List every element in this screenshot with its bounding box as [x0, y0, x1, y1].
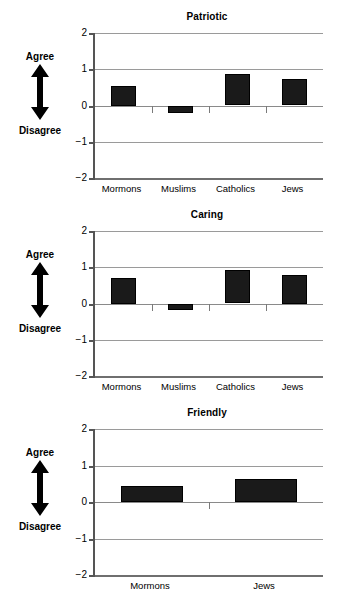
- y-axis-tick: [89, 267, 95, 269]
- chart-panel: CaringAgreeDisagree210−1−2MormonsMuslims…: [0, 0, 347, 605]
- y-axis-tick-label: −2: [76, 570, 87, 580]
- chart-title: Caring: [93, 209, 321, 220]
- y-axis-tick: [89, 466, 95, 468]
- y-axis-tick: [89, 539, 95, 541]
- bar: [168, 304, 193, 310]
- double-headed-vertical-arrow-icon: [4, 64, 76, 124]
- x-axis-category-label: Muslims: [150, 381, 207, 392]
- x-axis-tick: [266, 106, 267, 113]
- bar: [225, 270, 250, 303]
- x-axis-tick: [152, 106, 153, 113]
- agree-disagree-scale-annotation: AgreeDisagree: [4, 51, 76, 137]
- double-headed-vertical-arrow-icon: [4, 460, 76, 520]
- agree-label: Agree: [4, 447, 76, 459]
- y-axis-tick-label: 1: [81, 262, 87, 272]
- x-axis-labels: MormonsMuslimsCatholicsJews: [93, 381, 321, 392]
- y-axis-tick: [89, 69, 95, 71]
- y-axis-tick-label: 1: [81, 461, 87, 471]
- y-axis-tick: [89, 142, 95, 144]
- plot-area: 210−1−2: [93, 429, 321, 575]
- disagree-label: Disagree: [4, 521, 76, 533]
- disagree-label: Disagree: [4, 323, 76, 335]
- y-axis-tick: [89, 304, 95, 306]
- y-axis-tick-label: 2: [81, 28, 87, 38]
- gridline: [95, 231, 323, 232]
- x-axis-labels: MormonsJews: [93, 580, 321, 591]
- y-axis-tick-label: 2: [81, 226, 87, 236]
- gridline: [95, 267, 323, 268]
- agree-label: Agree: [4, 249, 76, 261]
- agree-disagree-scale-annotation: AgreeDisagree: [4, 249, 76, 335]
- y-axis-tick: [89, 178, 95, 180]
- y-axis-tick: [89, 502, 95, 504]
- gridline: [95, 178, 323, 180]
- gridline: [95, 106, 323, 107]
- y-axis-tick-label: −2: [76, 173, 87, 183]
- gridline: [95, 142, 323, 143]
- gridline: [95, 33, 323, 34]
- chart-panel: PatrioticAgreeDisagree210−1−2MormonsMusl…: [0, 0, 347, 605]
- gridline: [95, 69, 323, 70]
- bar: [111, 86, 136, 106]
- y-axis-tick-label: −1: [76, 137, 87, 147]
- x-axis-category-label: Mormons: [93, 381, 150, 392]
- y-axis-tick-label: 0: [81, 299, 87, 309]
- x-axis-category-label: Catholics: [207, 183, 264, 194]
- x-axis-category-label: Catholics: [207, 381, 264, 392]
- x-axis-category-label: Muslims: [150, 183, 207, 194]
- y-axis-tick: [89, 231, 95, 233]
- y-axis-tick-label: 1: [81, 64, 87, 74]
- gridline: [95, 466, 323, 467]
- y-axis-tick-label: −2: [76, 371, 87, 381]
- x-axis-category-label: Jews: [207, 580, 321, 591]
- x-axis-category-label: Jews: [264, 183, 321, 194]
- gridline: [95, 340, 323, 341]
- gridline: [95, 575, 323, 577]
- y-axis-tick-label: −1: [76, 534, 87, 544]
- agree-disagree-scale-annotation: AgreeDisagree: [4, 447, 76, 533]
- agree-label: Agree: [4, 51, 76, 63]
- y-axis-tick-label: 0: [81, 101, 87, 111]
- chart-title: Patriotic: [93, 11, 321, 22]
- y-axis-tick: [89, 33, 95, 35]
- y-axis-tick: [89, 429, 95, 431]
- y-axis-tick-label: 2: [81, 424, 87, 434]
- x-axis-category-label: Mormons: [93, 183, 150, 194]
- disagree-label: Disagree: [4, 125, 76, 137]
- x-axis-tick: [209, 502, 210, 509]
- y-axis-tick: [89, 340, 95, 342]
- bar: [282, 275, 307, 304]
- bar: [168, 106, 193, 113]
- x-axis-labels: MormonsMuslimsCatholicsJews: [93, 183, 321, 194]
- gridline: [95, 376, 323, 378]
- x-axis-tick: [209, 304, 210, 311]
- x-axis-tick: [152, 304, 153, 311]
- gridline: [95, 304, 323, 305]
- plot-area: 210−1−2: [93, 33, 321, 178]
- bar: [225, 74, 250, 105]
- gridline: [95, 502, 323, 503]
- bar: [282, 79, 307, 105]
- x-axis-tick: [266, 304, 267, 311]
- gridline: [95, 429, 323, 430]
- y-axis-tick: [89, 376, 95, 378]
- y-axis-tick-label: 0: [81, 497, 87, 507]
- x-axis-category-label: Mormons: [93, 580, 207, 591]
- y-axis-tick: [89, 106, 95, 108]
- y-axis-tick-label: −1: [76, 335, 87, 345]
- x-axis-tick: [209, 106, 210, 113]
- x-axis-category-label: Jews: [264, 381, 321, 392]
- y-axis-tick: [89, 575, 95, 577]
- chart-title: Friendly: [93, 407, 321, 418]
- plot-area: 210−1−2: [93, 231, 321, 376]
- bar: [121, 486, 184, 502]
- bar: [235, 479, 298, 502]
- gridline: [95, 539, 323, 540]
- chart-panel: FriendlyAgreeDisagree210−1−2MormonsJews: [0, 0, 347, 605]
- double-headed-vertical-arrow-icon: [4, 262, 76, 322]
- bar: [111, 278, 136, 303]
